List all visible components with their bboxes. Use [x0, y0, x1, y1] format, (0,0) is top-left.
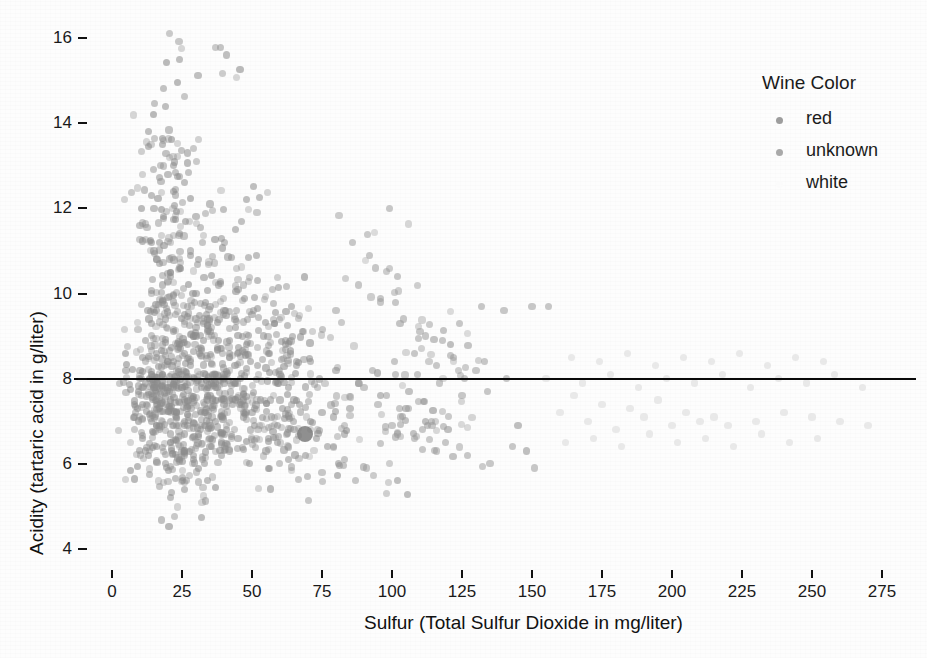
data-point	[682, 409, 689, 416]
data-point	[418, 316, 425, 323]
data-point	[130, 111, 137, 118]
legend-label-unknown: unknown	[806, 140, 878, 161]
data-point	[234, 332, 241, 339]
data-point	[440, 423, 447, 430]
data-point	[414, 282, 421, 289]
data-point	[195, 478, 202, 485]
data-point	[523, 447, 530, 454]
data-point	[116, 380, 123, 387]
data-point	[392, 299, 399, 306]
data-point	[170, 358, 177, 365]
data-point	[148, 287, 155, 294]
data-point	[280, 363, 287, 370]
data-point	[736, 350, 743, 357]
data-point	[195, 465, 202, 472]
data-point	[419, 426, 426, 433]
data-point	[255, 485, 262, 492]
data-point	[185, 169, 192, 176]
data-point	[236, 66, 243, 73]
data-point	[151, 100, 158, 107]
data-point	[562, 439, 569, 446]
x-tick-mark	[461, 570, 463, 578]
x-tick-label: 100	[362, 583, 422, 600]
y-tick-mark	[78, 37, 87, 39]
data-point	[172, 191, 179, 198]
data-point	[382, 423, 389, 430]
data-point	[399, 413, 406, 420]
data-point	[342, 275, 349, 282]
data-point	[161, 421, 168, 428]
data-point	[820, 358, 827, 365]
legend-item-unknown[interactable]: unknown	[758, 140, 923, 172]
data-point	[253, 406, 260, 413]
data-point	[321, 380, 328, 387]
data-point	[350, 342, 357, 349]
data-point	[177, 208, 184, 215]
data-point	[146, 447, 153, 454]
data-point	[219, 414, 226, 421]
data-point	[277, 314, 284, 321]
data-point	[127, 386, 134, 393]
data-point	[122, 350, 129, 357]
data-point	[284, 429, 291, 436]
y-tick-label: 4	[40, 540, 72, 557]
data-point	[146, 383, 153, 390]
data-point	[246, 274, 253, 281]
x-tick-mark	[251, 570, 253, 578]
data-point	[143, 138, 150, 145]
data-point	[170, 292, 177, 299]
data-point	[247, 340, 254, 347]
data-point	[333, 392, 340, 399]
data-point	[156, 318, 163, 325]
x-tick-label: 25	[152, 583, 212, 600]
data-point	[148, 320, 155, 327]
data-point	[305, 497, 312, 504]
x-tick-label: 50	[222, 583, 282, 600]
data-point	[180, 302, 187, 309]
data-point	[364, 231, 371, 238]
data-point	[468, 414, 475, 421]
data-point	[439, 337, 446, 344]
data-point	[598, 401, 605, 408]
data-point	[411, 350, 418, 357]
data-point	[240, 446, 247, 453]
legend-swatch-white	[776, 181, 783, 188]
data-point	[161, 362, 168, 369]
data-point	[138, 205, 145, 212]
data-point	[304, 473, 311, 480]
data-point	[238, 263, 245, 270]
data-point	[194, 72, 201, 79]
legend-label-white: white	[806, 172, 848, 193]
data-point	[369, 367, 376, 374]
data-point	[190, 420, 197, 427]
legend-swatch-unknown	[776, 149, 783, 156]
data-point	[724, 422, 731, 429]
legend-item-red[interactable]: red	[758, 108, 923, 140]
data-point	[203, 386, 210, 393]
data-point	[289, 333, 296, 340]
data-point	[219, 244, 226, 251]
data-point	[256, 194, 263, 201]
data-point	[205, 306, 212, 313]
data-point	[156, 260, 163, 267]
data-point	[747, 384, 754, 391]
data-point	[352, 477, 359, 484]
data-point	[208, 361, 215, 368]
data-point	[612, 426, 619, 433]
data-point	[440, 327, 447, 334]
data-point	[212, 448, 219, 455]
x-tick-label: 175	[572, 583, 632, 600]
data-point	[234, 435, 241, 442]
legend-item-white[interactable]: white	[758, 172, 923, 204]
legend-swatch-red	[776, 117, 783, 124]
data-point	[654, 396, 661, 403]
data-point	[680, 354, 687, 361]
data-point	[197, 426, 204, 433]
data-point	[405, 220, 412, 227]
data-point	[170, 162, 177, 169]
data-point	[486, 460, 493, 467]
data-point	[146, 471, 153, 478]
y-axis-label: Acidity (tartaric acid in g/liter)	[26, 311, 48, 555]
data-point	[568, 354, 575, 361]
data-point	[245, 254, 252, 261]
